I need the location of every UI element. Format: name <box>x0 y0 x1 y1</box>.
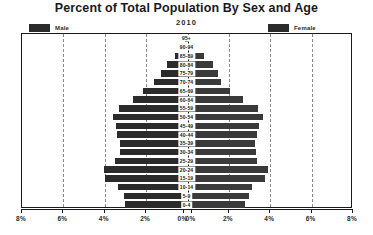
legend-swatch-female <box>268 24 289 32</box>
age-group-label: 50-54 <box>178 114 195 121</box>
x-tick-label: 8% <box>16 215 26 222</box>
pyramid-row: 70-74 <box>22 78 351 87</box>
bar-female <box>187 105 258 111</box>
age-group-label: 80-84 <box>178 61 195 68</box>
bar-male <box>119 105 186 111</box>
pyramid-row: 0-4 <box>22 200 351 209</box>
pyramid-row: 80-84 <box>22 60 351 69</box>
pyramid-row: 60-64 <box>22 95 351 104</box>
bar-female <box>187 140 255 146</box>
x-tick-label: 6% <box>306 215 316 222</box>
bar-male <box>125 201 186 207</box>
pyramid-row: 65-69 <box>22 87 351 96</box>
pyramid-row: 5-9 <box>22 192 351 201</box>
x-tick <box>21 209 22 213</box>
x-tick <box>62 209 63 213</box>
pyramid-row: 75-79 <box>22 69 351 78</box>
pyramid-row: 40-44 <box>22 130 351 139</box>
population-pyramid-chart: Percent of Total Population By Sex and A… <box>0 0 373 235</box>
x-tick-label: 4% <box>264 215 274 222</box>
pyramid-row: 85-89 <box>22 52 351 61</box>
chart-subtitle-year: 2010 <box>0 18 373 27</box>
age-group-label: 95+ <box>180 35 193 42</box>
age-group-label: 40-44 <box>178 131 195 138</box>
bar-male <box>116 123 186 129</box>
bar-male <box>118 184 186 190</box>
bar-male <box>117 131 186 137</box>
x-axis-ticks <box>21 209 352 210</box>
bar-female <box>187 123 259 129</box>
bar-male <box>105 175 187 181</box>
bar-female <box>187 193 249 199</box>
bar-rows: 95+90-9485-8980-8475-7970-7465-6960-6455… <box>22 34 351 207</box>
age-group-label: 60-64 <box>178 96 195 103</box>
bar-male <box>115 158 186 164</box>
bar-male <box>120 140 186 146</box>
age-group-label: 70-74 <box>178 79 195 86</box>
x-tick <box>183 209 184 213</box>
bar-female <box>187 114 264 120</box>
age-group-label: 90-94 <box>178 44 195 51</box>
x-tick <box>104 209 105 213</box>
plot-area: 95+90-9485-8980-8475-7970-7465-6960-6455… <box>21 33 352 208</box>
x-tick-label: 6% <box>57 215 67 222</box>
bar-female <box>187 158 257 164</box>
x-tick <box>228 209 229 213</box>
x-tick <box>145 209 146 213</box>
x-tick-label: 2% <box>223 215 233 222</box>
bar-female <box>187 166 269 172</box>
x-tick <box>311 209 312 213</box>
bar-male <box>113 114 186 120</box>
pyramid-row: 15-19 <box>22 174 351 183</box>
age-group-label: 85-89 <box>178 52 195 59</box>
age-group-label: 65-69 <box>178 87 195 94</box>
pyramid-row: 55-59 <box>22 104 351 113</box>
age-group-label: 35-39 <box>178 140 195 147</box>
x-tick <box>269 209 270 213</box>
x-tick-label: 8% <box>347 215 357 222</box>
bar-female <box>187 201 246 207</box>
bar-male <box>120 149 186 155</box>
legend-item-female: Female <box>268 18 316 27</box>
bar-female <box>187 131 257 137</box>
x-tick-label: 0% <box>186 215 196 222</box>
bar-female <box>187 184 252 190</box>
x-tick <box>191 209 192 213</box>
bar-female <box>187 149 256 155</box>
bar-male <box>104 166 187 172</box>
age-group-label: 10-14 <box>178 184 195 191</box>
pyramid-row: 50-54 <box>22 113 351 122</box>
age-group-label: 45-49 <box>178 122 195 129</box>
pyramid-row: 30-34 <box>22 148 351 157</box>
age-group-label: 5-9 <box>181 192 193 199</box>
x-tick-label: 2% <box>140 215 150 222</box>
pyramid-row: 10-14 <box>22 183 351 192</box>
x-tick <box>352 209 353 213</box>
age-group-label: 15-19 <box>178 175 195 182</box>
pyramid-row: 45-49 <box>22 122 351 131</box>
age-group-label: 30-34 <box>178 149 195 156</box>
bar-female <box>187 175 266 181</box>
age-group-label: 75-79 <box>178 70 195 77</box>
pyramid-row: 20-24 <box>22 165 351 174</box>
age-group-label: 0-4 <box>181 201 193 208</box>
age-group-label: 20-24 <box>178 166 195 173</box>
pyramid-row: 35-39 <box>22 139 351 148</box>
pyramid-row: 95+ <box>22 34 351 43</box>
pyramid-row: 25-29 <box>22 157 351 166</box>
x-tick-label: 4% <box>99 215 109 222</box>
legend-label-female: Female <box>294 25 316 31</box>
bar-male <box>124 193 186 199</box>
age-group-label: 25-29 <box>178 157 195 164</box>
age-group-label: 55-59 <box>178 105 195 112</box>
page-title: Percent of Total Population By Sex and A… <box>0 1 373 15</box>
pyramid-row: 90-94 <box>22 43 351 52</box>
